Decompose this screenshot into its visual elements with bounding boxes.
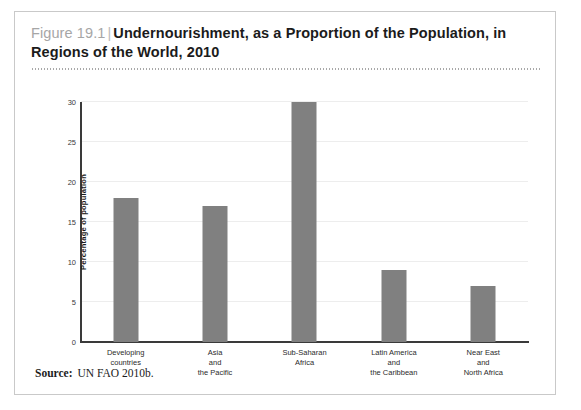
- y-axis-tick-label: 30: [68, 98, 76, 107]
- bar-chart: 051015202530 Percentage of population De…: [15, 80, 557, 358]
- figure-caption: Figure 19.1|Undernourishment, as a Propo…: [31, 24, 539, 62]
- y-axis-tick-label: 25: [68, 138, 76, 147]
- bar[interactable]: [113, 198, 138, 342]
- bar-slot: Asiaandthe Pacific: [170, 102, 259, 342]
- source-text: UN FAO 2010b.: [72, 367, 153, 379]
- bar[interactable]: [292, 102, 317, 342]
- x-axis-category-label: Asiaandthe Pacific: [198, 348, 233, 378]
- header-divider: [31, 68, 541, 70]
- y-axis-tick-label: 10: [68, 258, 76, 267]
- figure-header: Figure 19.1|Undernourishment, as a Propo…: [31, 24, 539, 62]
- bars-group: DevelopingcountriesAsiaandthe PacificSub…: [81, 102, 528, 342]
- y-axis-tick-label: 5: [72, 298, 76, 307]
- bar-slot: Developingcountries: [81, 102, 170, 342]
- bar-slot: Latin Americaandthe Caribbean: [349, 102, 438, 342]
- bar[interactable]: [203, 206, 228, 342]
- y-axis-tick-label: 0: [72, 338, 76, 347]
- x-axis-category-label: Developingcountries: [107, 348, 145, 368]
- source-label: Source:: [35, 367, 72, 379]
- y-axis-tick-label: 15: [68, 218, 76, 227]
- plot-area: 051015202530 Percentage of population De…: [81, 102, 528, 342]
- bar[interactable]: [381, 270, 406, 342]
- bar-slot: Sub-SaharanAfrica: [260, 102, 349, 342]
- x-axis-category-label: Sub-SaharanAfrica: [282, 348, 326, 368]
- figure-number-label: Figure 19.1: [31, 25, 105, 41]
- x-axis-category-label: Latin Americaandthe Caribbean: [370, 348, 417, 378]
- bar-slot: Near EastandNorth Africa: [439, 102, 528, 342]
- x-axis-category-label: Near EastandNorth Africa: [464, 348, 503, 378]
- y-axis-tick-label: 20: [68, 178, 76, 187]
- figure-frame: Figure 19.1|Undernourishment, as a Propo…: [14, 11, 556, 395]
- source-line: Source:UN FAO 2010b.: [35, 367, 154, 379]
- bar[interactable]: [471, 286, 496, 342]
